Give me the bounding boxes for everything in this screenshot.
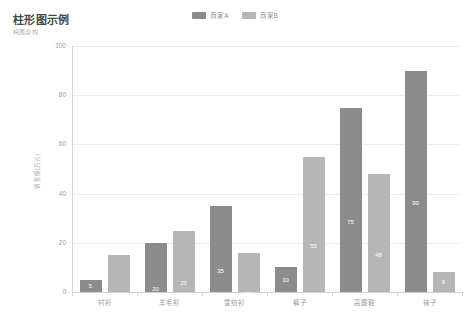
x-axis-category-label: 雪纺衫 xyxy=(224,297,245,307)
y-axis-tick-label: 20 xyxy=(0,239,66,246)
bar-value-label: 48 xyxy=(375,252,382,258)
x-axis-tick xyxy=(332,292,333,296)
bar-chart-container: 柱形图示例 纯属虚构 商家A 商家B 销售额(万元) 020406080100 … xyxy=(0,0,470,327)
x-axis-tick xyxy=(72,292,73,296)
x-axis-tick xyxy=(137,292,138,296)
y-axis-tick-label: 100 xyxy=(0,42,66,49)
bar[interactable]: 10 xyxy=(275,267,297,292)
bar-value-label: 90 xyxy=(412,200,419,206)
bar-value-label: 20 xyxy=(152,286,159,292)
bar[interactable]: 20 xyxy=(145,243,167,292)
bar-value-label: 35 xyxy=(217,268,224,274)
bar[interactable]: 48 xyxy=(368,174,390,292)
y-axis-tick-label: 0 xyxy=(0,288,66,295)
bar-value-label: 75 xyxy=(347,219,354,225)
bar-value-label: 8 xyxy=(442,279,445,285)
x-axis-category-label: 裤子 xyxy=(293,297,307,307)
legend-item-series-b[interactable]: 商家B xyxy=(242,10,278,20)
legend-label-series-a: 商家A xyxy=(210,10,228,20)
x-axis-category-label: 高跟鞋 xyxy=(354,297,375,307)
x-axis-category-label: 羊毛衫 xyxy=(159,297,180,307)
x-axis-tick xyxy=(462,292,463,296)
legend-swatch-series-b xyxy=(242,12,256,19)
bar-value-label: 15 xyxy=(115,293,122,299)
bar[interactable]: 75 xyxy=(340,108,362,293)
bar[interactable]: 5 xyxy=(80,280,102,292)
bar[interactable]: 25 xyxy=(173,231,195,293)
plot-area: 5152025351610557548908 xyxy=(72,46,462,292)
bar[interactable]: 90 xyxy=(405,71,427,292)
y-axis-tick-label: 40 xyxy=(0,190,66,197)
bar[interactable]: 35 xyxy=(210,206,232,292)
bar-value-label: 16 xyxy=(245,291,252,297)
x-axis-tick xyxy=(397,292,398,296)
bar-value-label: 10 xyxy=(282,277,289,283)
bar-value-label: 5 xyxy=(89,283,92,289)
x-axis-tick xyxy=(202,292,203,296)
y-axis-tick-label: 60 xyxy=(0,140,66,147)
x-axis-category-label: 袜子 xyxy=(423,297,437,307)
bar[interactable]: 8 xyxy=(433,272,455,292)
chart-legend: 商家A 商家B xyxy=(0,10,470,20)
bar[interactable]: 15 xyxy=(108,255,130,292)
bar-value-label: 25 xyxy=(180,280,187,286)
legend-swatch-series-a xyxy=(192,12,206,19)
chart-subtitle: 纯属虚构 xyxy=(13,27,38,36)
bar[interactable]: 55 xyxy=(303,157,325,292)
legend-label-series-b: 商家B xyxy=(260,10,278,20)
y-axis-tick-label: 80 xyxy=(0,91,66,98)
bar[interactable]: 16 xyxy=(238,253,260,292)
chart-title: 柱形图示例 xyxy=(13,11,70,27)
x-axis-tick xyxy=(267,292,268,296)
x-axis-category-label: 衬衫 xyxy=(98,297,112,307)
bar-value-label: 55 xyxy=(310,243,317,249)
legend-item-series-a[interactable]: 商家A xyxy=(192,10,228,20)
